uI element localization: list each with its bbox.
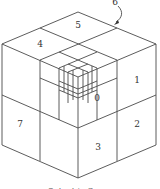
arrowhead-icon <box>114 20 119 25</box>
octant-6-pointer <box>114 6 122 25</box>
octant-label-7: 7 <box>17 119 23 129</box>
octant-0-subdivision <box>40 52 117 120</box>
octant-label-1: 1 <box>134 75 140 85</box>
octant-label-4: 4 <box>37 39 43 49</box>
figure-caption: Octant in Space <box>48 186 113 189</box>
cube-outline <box>2 12 156 178</box>
right-face-grid <box>78 60 156 161</box>
octant-label-3: 3 <box>95 142 101 152</box>
octant-label-0: 0 <box>94 93 100 103</box>
left-face-grid <box>2 60 78 161</box>
top-face-grid <box>40 28 117 60</box>
octant-label-5: 5 <box>75 20 81 30</box>
octree-diagram: 5 4 6 1 0 7 2 3 Octant in Space <box>0 0 160 189</box>
octant-label-6: 6 <box>112 0 118 7</box>
octant-label-2: 2 <box>134 119 140 129</box>
